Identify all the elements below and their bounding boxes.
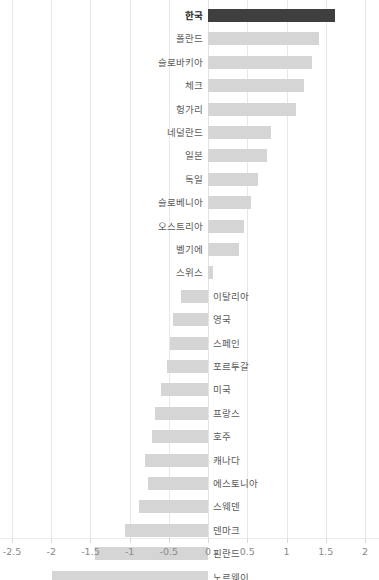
x-tick-label: 1.5 [306, 546, 346, 557]
tick-mark [247, 538, 248, 543]
bar-label-폴란드: 폴란드 [176, 30, 203, 47]
bar-스웨덴[interactable] [139, 500, 208, 513]
bar-덴마크[interactable] [125, 524, 208, 537]
x-tick-label: -0.5 [149, 546, 189, 557]
bar-label-스페인: 스페인 [213, 335, 240, 352]
bar-label-스위스: 스위스 [176, 264, 203, 281]
bar-row: 슬로바키아 [0, 51, 379, 74]
tick-mark [326, 538, 327, 543]
bar-label-체크: 체크 [185, 77, 203, 94]
tick-mark [130, 538, 131, 543]
bar-row: 스웨덴 [0, 495, 379, 518]
bar-label-덴마크: 덴마크 [213, 522, 240, 539]
bar-스페인[interactable] [170, 337, 208, 350]
x-tick-label: 0.5 [227, 546, 267, 557]
bar-에스토니아[interactable] [148, 477, 208, 490]
bar-row: 슬로베니아 [0, 191, 379, 214]
bar-label-미국: 미국 [213, 381, 231, 398]
bar-미국[interactable] [161, 383, 208, 396]
bar-한국[interactable] [208, 9, 335, 22]
bar-label-프랑스: 프랑스 [213, 405, 240, 422]
bar-네덜란드[interactable] [208, 126, 271, 139]
bar-일본[interactable] [208, 149, 267, 162]
x-tick-label: -2.5 [0, 546, 32, 557]
bar-슬로바키아[interactable] [208, 56, 312, 69]
bar-캐나다[interactable] [145, 454, 208, 467]
x-tick-label: -1 [110, 546, 150, 557]
tick-mark [90, 538, 91, 543]
bar-label-캐나다: 캐나다 [213, 452, 240, 469]
axis-spine [0, 538, 379, 539]
bar-오스트리아[interactable] [208, 220, 244, 233]
bar-label-독일: 독일 [185, 171, 203, 188]
bar-label-스웨덴: 스웨덴 [213, 498, 240, 515]
bar-label-일본: 일본 [185, 147, 203, 164]
tick-mark [365, 538, 366, 543]
bar-row: 포르투갈 [0, 355, 379, 378]
bar-체크[interactable] [208, 79, 304, 92]
bar-row: 프랑스 [0, 402, 379, 425]
bar-row: 헝가리 [0, 98, 379, 121]
bar-label-영국: 영국 [213, 311, 231, 328]
bar-헝가리[interactable] [208, 103, 296, 116]
bar-label-벨기에: 벨기에 [176, 241, 203, 258]
bar-row: 캐나다 [0, 449, 379, 472]
x-tick-label: 2 [345, 546, 379, 557]
bar-row: 일본 [0, 144, 379, 167]
bar-row: 이탈리아 [0, 285, 379, 308]
bar-포르투갈[interactable] [167, 360, 209, 373]
x-tick-label: -2 [31, 546, 71, 557]
x-tick-label: 1 [267, 546, 307, 557]
bar-label-포르투갈: 포르투갈 [213, 358, 249, 375]
bar-row: 에스토니아 [0, 472, 379, 495]
bar-label-헝가리: 헝가리 [176, 101, 203, 118]
bar-영국[interactable] [173, 313, 208, 326]
bar-벨기에[interactable] [208, 243, 239, 256]
bar-row: 폴란드 [0, 27, 379, 50]
tick-mark [51, 538, 52, 543]
tick-mark [208, 538, 209, 543]
bar-row: 벨기에 [0, 238, 379, 261]
bar-독일[interactable] [208, 173, 257, 186]
bar-row: 스페인 [0, 332, 379, 355]
bar-슬로베니아[interactable] [208, 196, 251, 209]
bar-row: 네덜란드 [0, 121, 379, 144]
bar-label-이탈리아: 이탈리아 [213, 288, 249, 305]
bar-이탈리아[interactable] [181, 290, 208, 303]
bar-row: 독일 [0, 168, 379, 191]
x-tick-label: 0 [188, 546, 228, 557]
bar-label-슬로바키아: 슬로바키아 [158, 54, 203, 71]
bar-label-슬로베니아: 슬로베니아 [158, 194, 203, 211]
bar-row: 호주 [0, 425, 379, 448]
bars-layer: 한국폴란드슬로바키아체크헝가리네덜란드일본독일슬로베니아오스트리아벨기에스위스이… [0, 0, 379, 538]
bar-chart: 한국폴란드슬로바키아체크헝가리네덜란드일본독일슬로베니아오스트리아벨기에스위스이… [0, 0, 379, 580]
bar-row: 영국 [0, 308, 379, 331]
bar-스위스[interactable] [208, 266, 213, 279]
bar-프랑스[interactable] [155, 407, 208, 420]
bar-row: 체크 [0, 74, 379, 97]
bar-row: 오스트리아 [0, 215, 379, 238]
bar-label-오스트리아: 오스트리아 [158, 218, 203, 235]
bar-label-네덜란드: 네덜란드 [167, 124, 203, 141]
bar-label-호주: 호주 [213, 428, 231, 445]
tick-mark [287, 538, 288, 543]
bar-호주[interactable] [152, 430, 208, 443]
plot-area: 한국폴란드슬로바키아체크헝가리네덜란드일본독일슬로베니아오스트리아벨기에스위스이… [0, 0, 379, 538]
tick-mark [12, 538, 13, 543]
bar-label-에스토니아: 에스토니아 [213, 475, 258, 492]
bar-row: 스위스 [0, 261, 379, 284]
bar-폴란드[interactable] [208, 32, 319, 45]
bar-row: 미국 [0, 378, 379, 401]
x-axis: -2.5-2-1.5-1-0.500.511.52 [0, 538, 379, 580]
x-tick-label: -1.5 [70, 546, 110, 557]
bar-label-한국: 한국 [185, 7, 203, 24]
bar-row: 한국 [0, 4, 379, 27]
tick-mark [169, 538, 170, 543]
